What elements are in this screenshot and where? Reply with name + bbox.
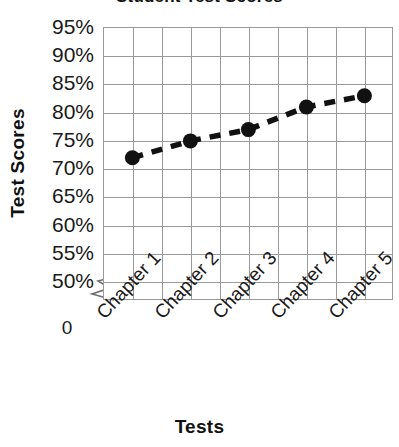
y-axis-tick-label: 75% [4, 129, 94, 150]
data-point-marker: Chapter 1: 72% [125, 150, 140, 165]
y-axis-tick-label: 85% [4, 72, 94, 93]
y-axis-tick-label: 50% [4, 270, 94, 291]
y-axis-zero-label: 0 [47, 318, 87, 337]
y-axis-tick-label: 70% [4, 157, 94, 178]
chart-container: Student Test Scores Test Scores 95%90%85… [0, 0, 399, 447]
chart-title: Student Test Scores [0, 0, 399, 7]
y-axis-tick-label: 55% [4, 242, 94, 263]
y-axis-tick-label: 65% [4, 185, 94, 206]
y-axis-tick-label: 90% [4, 44, 94, 65]
y-axis-tick-label: 60% [4, 214, 94, 235]
series-markers: Chapter 1: 72%Chapter 2: 75%Chapter 3: 7… [125, 88, 372, 165]
data-point-marker: Chapter 5: 83% [357, 88, 372, 103]
y-axis-tick-label: 80% [4, 101, 94, 122]
x-axis-title: Tests [0, 416, 399, 438]
data-point-marker: Chapter 3: 77% [241, 122, 256, 137]
data-point-marker: Chapter 2: 75% [183, 133, 198, 148]
data-point-marker: Chapter 4: 81% [299, 100, 314, 115]
y-axis-tick-label: 95% [4, 16, 94, 37]
